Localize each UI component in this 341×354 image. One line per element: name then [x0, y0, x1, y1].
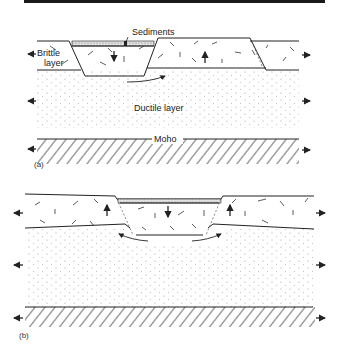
- sediments-label: Sediments: [132, 27, 175, 37]
- panel-b: (b): [0, 194, 341, 354]
- panel-b-label: (b): [19, 331, 29, 340]
- ductile-label: Ductile layer: [134, 103, 184, 113]
- sediments-b: [118, 199, 221, 203]
- moho-label: Moho: [154, 134, 177, 144]
- brittle-label-line1: Brittle: [37, 48, 60, 58]
- rift-diagram: Sediments Brittle layer Ductile layer Mo…: [0, 0, 341, 354]
- panel-a-label: (a): [34, 160, 44, 169]
- sediments-a: [72, 41, 154, 46]
- ductile-layer-a: [37, 70, 299, 128]
- brittle-label-line2: layer: [44, 58, 64, 68]
- panel-a: Sediments Brittle layer Ductile layer Mo…: [0, 27, 341, 184]
